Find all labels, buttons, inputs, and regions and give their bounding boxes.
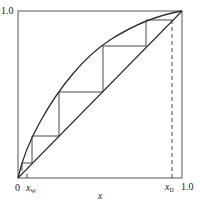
xd-label-sub: D: [169, 187, 173, 193]
xd-label: xD: [165, 182, 174, 195]
y-axis-top-label: 1.0: [1, 6, 14, 16]
xw-label: xW: [26, 183, 36, 196]
mccabe-thiele-diagram: [0, 0, 200, 209]
origin-label: 0: [15, 183, 20, 193]
xw-label-sub: W: [30, 188, 36, 194]
x-axis-end-label: 1.0: [181, 182, 194, 192]
diagonal-line: [18, 11, 182, 178]
stage-steps: [22, 20, 172, 171]
x-axis-label: x: [98, 191, 102, 201]
